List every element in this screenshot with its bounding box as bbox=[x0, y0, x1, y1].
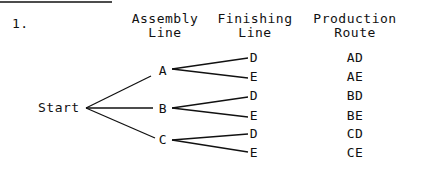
start-node: Start bbox=[38, 101, 80, 115]
route-be: BE bbox=[347, 109, 364, 123]
route-ad: AD bbox=[347, 51, 364, 65]
route-ae: AE bbox=[347, 70, 364, 84]
node-assembly-b: B bbox=[159, 102, 167, 116]
route-cd: CD bbox=[347, 127, 364, 141]
header-assembly-line-1: Assembly bbox=[132, 12, 199, 26]
node-b-finishing-e: E bbox=[250, 109, 258, 123]
problem-number: 1. bbox=[12, 17, 29, 31]
header-assembly-line-2: Line bbox=[148, 26, 181, 40]
route-ce: CE bbox=[347, 146, 364, 160]
node-b-finishing-d: D bbox=[250, 89, 258, 103]
node-c-finishing-d: D bbox=[250, 127, 258, 141]
route-bd: BD bbox=[347, 89, 364, 103]
header-route-line-1: Production bbox=[313, 12, 396, 26]
header-finishing-line-1: Finishing bbox=[218, 12, 293, 26]
node-c-finishing-e: E bbox=[250, 146, 258, 160]
header-finishing-line-2: Line bbox=[238, 26, 271, 40]
node-assembly-a: A bbox=[159, 64, 167, 78]
node-a-finishing-d: D bbox=[250, 51, 258, 65]
header-route-line-2: Route bbox=[334, 26, 376, 40]
node-a-finishing-e: E bbox=[250, 70, 258, 84]
node-assembly-c: C bbox=[159, 133, 167, 147]
